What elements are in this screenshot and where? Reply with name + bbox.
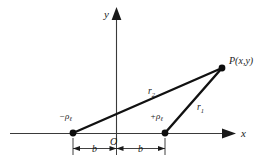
y-axis-label: y xyxy=(103,8,109,20)
positive-charge-dot xyxy=(162,130,169,137)
origin-label: O xyxy=(110,136,117,147)
negative-charge-dot xyxy=(70,130,77,137)
x-axis-arrowhead xyxy=(222,129,236,139)
r1-label: r1 xyxy=(197,102,204,114)
r1-ray-line xyxy=(165,68,222,133)
field-point-label: P(x,y) xyxy=(228,55,254,67)
dim-arrow-right-start xyxy=(117,146,124,151)
r2-label: r2 xyxy=(148,86,156,98)
r1-subscript: 1 xyxy=(201,107,204,114)
field-point-dot xyxy=(219,65,226,72)
negative-charge-subscript: ℓ xyxy=(69,116,72,122)
negative-charge-label: −ρℓ xyxy=(59,111,72,122)
right-span-label: b xyxy=(138,143,143,154)
y-axis-arrowhead xyxy=(112,7,122,20)
dimension-lines-group xyxy=(73,138,165,155)
left-span-label: b xyxy=(92,143,97,154)
x-axis-label: x xyxy=(240,127,246,139)
positive-charge-label: +ρℓ xyxy=(150,111,163,122)
r2-ray-line xyxy=(73,68,222,133)
ray-lines-group xyxy=(73,68,222,133)
positive-charge-subscript: ℓ xyxy=(160,116,163,122)
dim-arrow-left-start xyxy=(73,146,80,151)
line-charge-diagram: y x O P(x,y) −ρℓ +ρℓ r2 r1 b b xyxy=(0,0,267,161)
diagram-canvas: y x O P(x,y) −ρℓ +ρℓ r2 r1 b b xyxy=(0,0,267,161)
axes-group xyxy=(10,7,236,140)
dim-arrow-right-end xyxy=(158,146,165,151)
